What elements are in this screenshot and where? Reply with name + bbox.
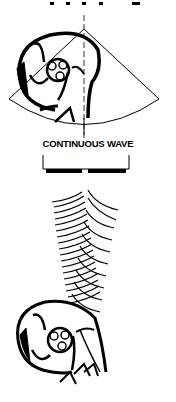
heart-cross-section-bottom [18, 301, 106, 384]
continuous-wave-label: CONTINUOUS WAVE [0, 138, 176, 149]
transducer-bracket [43, 155, 129, 173]
continuous-wave-arcs [52, 190, 118, 312]
top-text-fragment [50, 2, 140, 5]
heart-cross-section-top [17, 33, 99, 122]
diagram-canvas [0, 0, 176, 402]
